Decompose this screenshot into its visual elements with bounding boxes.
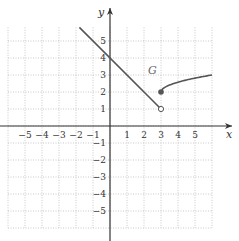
x-tick-label: 2 [141,130,147,140]
y-tick-label: −2 [93,155,106,165]
graph-of-G: xy−5−4−3−2−11234554321−1−2−3−4−5G [0,0,239,241]
y-tick-label: 2 [100,87,106,97]
y-tick-label: −4 [93,189,107,199]
curve-G [161,75,212,92]
y-tick-label: 3 [100,70,106,80]
x-tick-label: −4 [35,130,49,140]
x-tick-label: −5 [18,130,32,140]
y-tick-label: 5 [100,36,106,46]
y-tick-label: 1 [100,104,106,114]
x-tick-label: 5 [192,130,198,140]
y-axis-label: y [97,6,105,19]
y-tick-label: −1 [93,138,106,148]
y-tick-label: −5 [93,206,107,216]
x-tick-label: 1 [124,130,130,140]
open-dot-icon [158,106,163,111]
x-tick-label: 3 [158,130,164,140]
x-axis-label: x [226,128,233,141]
x-tick-label: −3 [52,130,66,140]
y-tick-label: −3 [93,172,107,182]
x-tick-label: 4 [175,130,181,140]
x-tick-label: −2 [69,130,82,140]
y-tick-label: 4 [100,53,106,63]
function-label: G [148,64,157,77]
closed-dot-icon [158,89,164,95]
